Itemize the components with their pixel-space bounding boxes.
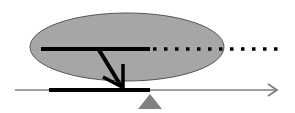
fulcrum-triangle-icon	[138, 94, 162, 109]
lever-diagram	[0, 0, 295, 113]
